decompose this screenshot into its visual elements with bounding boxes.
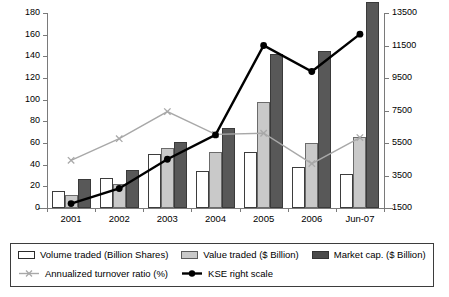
y-axis-left-tick-label: 120 bbox=[4, 73, 40, 82]
legend-item-4[interactable]: KSE right scale bbox=[181, 268, 273, 279]
marker-turnover-2002 bbox=[116, 135, 122, 141]
x-axis-tick bbox=[240, 208, 241, 212]
legend-item-label: Annualized turnover ratio (%) bbox=[45, 268, 168, 279]
legend-item-label: KSE right scale bbox=[208, 268, 273, 279]
y-axis-right-tick-label: 13500 bbox=[392, 8, 432, 17]
legend-line-dot-icon bbox=[181, 269, 203, 278]
line-series-layer bbox=[47, 13, 384, 208]
y-axis-left-tick-label: 140 bbox=[4, 51, 40, 60]
legend-row-primary: Volume traded (Billion Shares)Value trad… bbox=[18, 249, 439, 260]
marker-kse-2006 bbox=[308, 68, 315, 75]
marker-turnover-2006 bbox=[309, 160, 315, 166]
y-axis-left-tick-label: 180 bbox=[4, 8, 40, 17]
legend-swatch-icon bbox=[312, 251, 329, 259]
y-axis-right-tick-label: 5500 bbox=[392, 138, 432, 147]
x-axis-tick bbox=[288, 208, 289, 212]
marker-kse-jun-07 bbox=[357, 31, 364, 38]
marker-kse-2002 bbox=[116, 185, 123, 192]
x-axis-label-jun-07: Jun-07 bbox=[330, 213, 390, 224]
y-axis-left-tick-label: 40 bbox=[4, 160, 40, 169]
y-axis-left-tick-label: 0 bbox=[4, 203, 40, 212]
y-axis-right-tick-label: 7500 bbox=[392, 106, 432, 115]
marker-turnover-jun-07 bbox=[357, 134, 363, 140]
y-axis-right-tick bbox=[385, 13, 389, 14]
x-axis-tick bbox=[384, 208, 385, 212]
x-axis-tick bbox=[95, 208, 96, 212]
y-axis-right-tick bbox=[385, 143, 389, 144]
y-axis-right-tick bbox=[385, 78, 389, 79]
y-axis-left-tick-label: 100 bbox=[4, 95, 40, 104]
legend-row-secondary: Annualized turnover ratio (%)KSE right s… bbox=[18, 268, 286, 279]
x-axis-tick bbox=[47, 208, 48, 212]
marker-turnover-2003 bbox=[164, 108, 170, 114]
x-axis-line bbox=[38, 208, 393, 209]
marker-kse-2001 bbox=[68, 200, 75, 207]
x-axis-tick bbox=[191, 208, 192, 212]
legend-item-label: Value traded ($ Billion) bbox=[203, 249, 298, 260]
x-axis-tick bbox=[336, 208, 337, 212]
legend-swatch-icon bbox=[18, 251, 35, 259]
y-axis-left-tick-label: 20 bbox=[4, 181, 40, 190]
y-axis-right-tick-label: 3500 bbox=[392, 171, 432, 180]
y-axis-right-tick bbox=[385, 208, 389, 209]
legend-item-label: Volume traded (Billion Shares) bbox=[40, 249, 168, 260]
legend-item-1[interactable]: Value traded ($ Billion) bbox=[181, 249, 298, 260]
legend-item-3[interactable]: Annualized turnover ratio (%) bbox=[18, 268, 168, 279]
y-axis-right-tick-label: 9500 bbox=[392, 73, 432, 82]
y-axis-right-tick bbox=[385, 176, 389, 177]
y-axis-left-tick-label: 160 bbox=[4, 30, 40, 39]
x-axis-tick bbox=[143, 208, 144, 212]
legend-item-label: Market cap. ($ Billion) bbox=[334, 249, 426, 260]
y-axis-right-tick-label: 11500 bbox=[392, 41, 432, 50]
y-axis-left-tick-label: 80 bbox=[4, 116, 40, 125]
legend-line-x-icon bbox=[18, 269, 40, 278]
marker-kse-2003 bbox=[164, 156, 171, 163]
chart-legend: Volume traded (Billion Shares)Value trad… bbox=[10, 243, 434, 287]
marker-kse-2005 bbox=[260, 42, 267, 49]
legend-item-0[interactable]: Volume traded (Billion Shares) bbox=[18, 249, 168, 260]
legend-item-2[interactable]: Market cap. ($ Billion) bbox=[312, 249, 426, 260]
marker-kse-2004 bbox=[212, 131, 219, 138]
legend-swatch-icon bbox=[181, 251, 198, 259]
line-series-kse bbox=[71, 34, 360, 203]
y-axis-right-tick bbox=[385, 46, 389, 47]
y-axis-left-tick-label: 60 bbox=[4, 138, 40, 147]
y-axis-right-tick-label: 1500 bbox=[392, 203, 432, 212]
marker-turnover-2001 bbox=[68, 157, 74, 163]
y-axis-right-tick bbox=[385, 111, 389, 112]
chart-container: 020406080100120140160180 150035005500750… bbox=[0, 0, 449, 297]
